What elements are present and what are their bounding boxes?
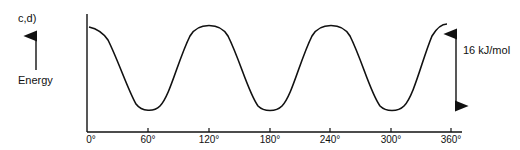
panel-label: c,d) [18,12,36,24]
x-tick-360: 360° [441,134,462,145]
barrier-label: 16 kJ/mol [463,44,510,56]
x-tick-180: 180° [260,134,281,145]
x-tick-0: 0° [86,134,96,145]
x-tick-300: 300° [381,134,402,145]
axes [87,14,462,132]
energy-diagram [0,0,520,150]
energy-curve [89,24,447,111]
x-tick-60: 60° [140,134,155,145]
y-axis-label: Energy [18,74,53,86]
x-tick-120: 120° [199,134,220,145]
x-tick-240: 240° [320,134,341,145]
